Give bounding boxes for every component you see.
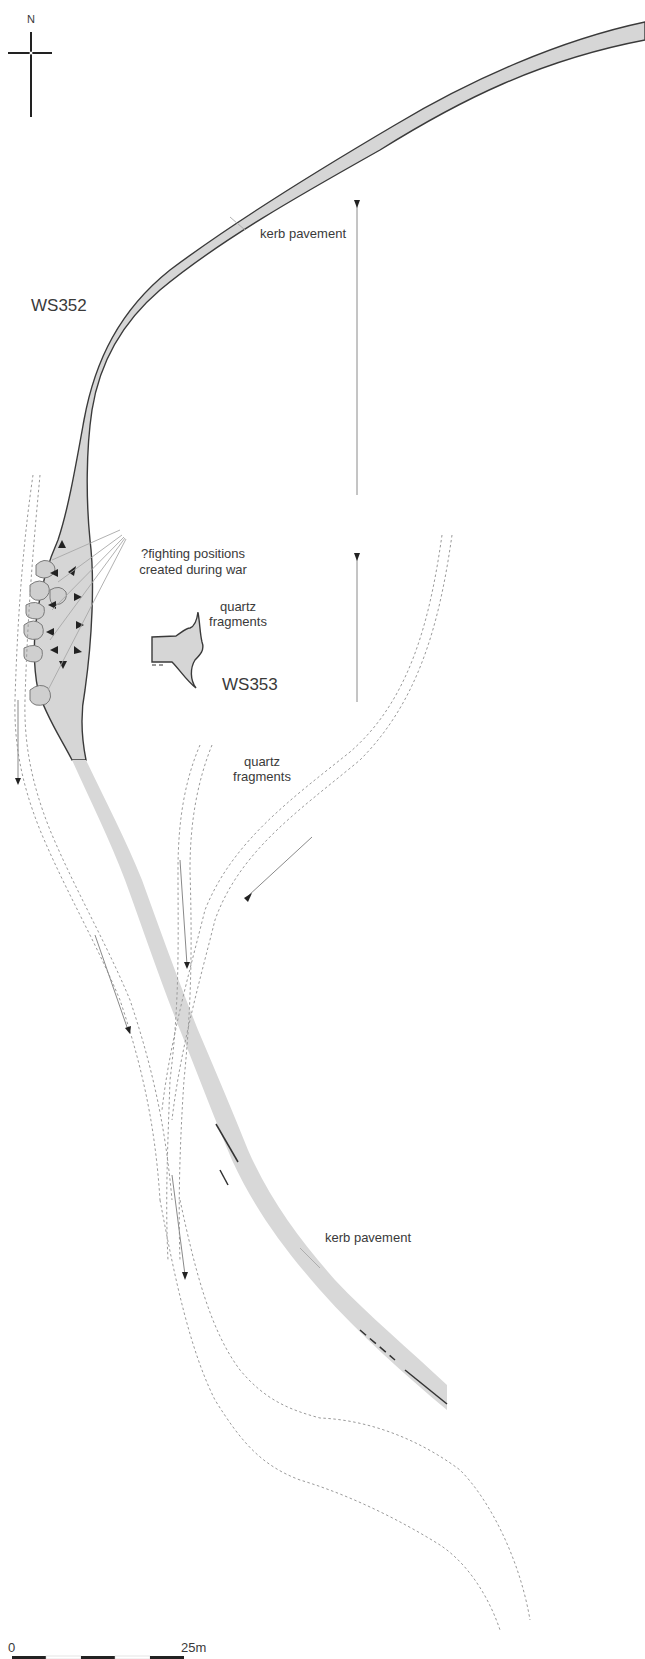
site-label-ws353: WS353 (222, 675, 278, 694)
north-arrow-icon: N (8, 13, 52, 117)
ws353-feature (152, 612, 203, 688)
quartz-lower-label-line2: fragments (233, 769, 291, 784)
dotted-tracks (15, 475, 530, 1630)
scale-start-label: 0 (8, 1640, 15, 1655)
north-label: N (27, 13, 35, 25)
quartz-lower-label-line1: quartz (244, 754, 280, 769)
site-label-ws352: WS352 (31, 296, 87, 315)
scale-end-label: 25m (181, 1640, 206, 1655)
fighting-positions-label-line2: created during war (139, 562, 247, 577)
scale-bar: 0 25m (8, 1640, 206, 1659)
transect-lines (354, 200, 360, 702)
kerb-pavement-road-north (34, 22, 645, 760)
quartz-upper-label-line2: fragments (209, 614, 267, 629)
kerb-pavement-label-south: kerb pavement (325, 1230, 411, 1245)
kerb-pavement-road-south (72, 760, 447, 1410)
site-plan-map: N (0, 0, 645, 1659)
quartz-upper-label-line1: quartz (220, 599, 256, 614)
fighting-positions-label-line1: ?fighting positions (141, 546, 246, 561)
kerb-pavement-label-north: kerb pavement (260, 226, 346, 241)
